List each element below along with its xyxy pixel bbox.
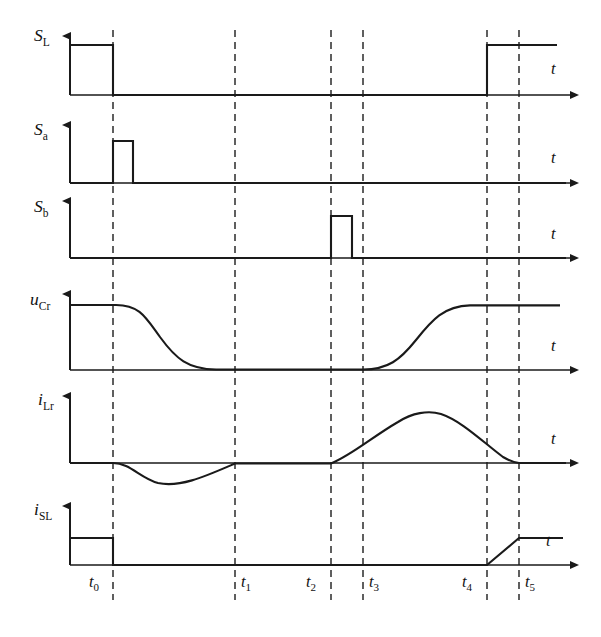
panel-i-lr bbox=[70, 396, 571, 484]
trace-label-s-b: Sb bbox=[34, 196, 49, 219]
panel-i-sl bbox=[70, 506, 571, 565]
waveform-i-sl bbox=[70, 538, 563, 565]
timing-diagram bbox=[0, 0, 601, 637]
time-tick-label-t4: t4 bbox=[462, 572, 472, 593]
trace-label-u-cr: uCr bbox=[30, 289, 50, 312]
waveform-s-l bbox=[70, 45, 557, 95]
panel-s-b bbox=[70, 201, 571, 258]
panel-s-l bbox=[70, 36, 571, 95]
waveform-i-lr bbox=[70, 412, 566, 484]
t-axis-label-i-lr: t bbox=[551, 429, 556, 449]
time-tick-label-t5: t5 bbox=[525, 572, 535, 593]
time-tick-label-t1: t1 bbox=[241, 572, 251, 593]
figure-canvas: SL Sa Sb uCr iLr iSL t t t t t t t0 t1 t… bbox=[0, 0, 601, 637]
waveform-s-a bbox=[70, 141, 566, 183]
time-tick-label-t2: t2 bbox=[306, 572, 316, 593]
time-tick-label-t0: t0 bbox=[89, 572, 99, 593]
panel-s-a bbox=[70, 125, 571, 183]
t-axis-label-i-sl: t bbox=[546, 531, 551, 551]
t-axis-label-u-cr: t bbox=[551, 336, 556, 356]
panel-u-cr bbox=[70, 294, 571, 370]
t-axis-label-s-a: t bbox=[551, 148, 556, 168]
trace-label-s-a: Sa bbox=[34, 119, 48, 142]
trace-label-i-sl: iSL bbox=[34, 499, 52, 522]
waveform-s-b bbox=[70, 216, 566, 258]
time-tick-label-t3: t3 bbox=[369, 572, 379, 593]
t-axis-label-s-l: t bbox=[551, 59, 556, 79]
trace-label-i-lr: iLr bbox=[38, 389, 54, 412]
time-guides bbox=[113, 30, 519, 600]
t-axis-label-s-b: t bbox=[551, 224, 556, 244]
trace-label-s-l: SL bbox=[34, 25, 50, 48]
